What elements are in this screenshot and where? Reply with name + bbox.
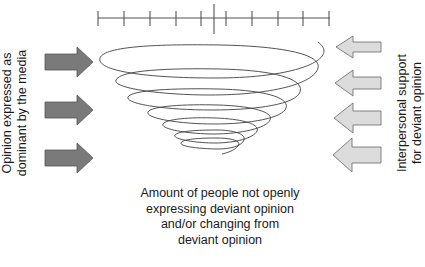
right-arrow-icon (45, 47, 93, 77)
media-arrows (45, 47, 93, 173)
right-label-line-1: Interpersonal support (395, 48, 410, 178)
left-label-line-2: dominant by the media (15, 48, 30, 178)
right-arrow-icon (45, 95, 93, 125)
caption-line-4: deviant opinion (110, 233, 330, 249)
caption-line-2: expressing deviant opinion (110, 202, 330, 218)
right-arrow-icon (45, 143, 93, 173)
interpersonal-support-arrows (333, 36, 381, 172)
silent-people-caption: Amount of people not openly expressing d… (110, 186, 330, 248)
interpersonal-support-label: Interpersonal support for deviant opinio… (395, 48, 425, 178)
spiral-of-silence-diagram: Opinion expressed as dominant by the med… (0, 0, 425, 267)
caption-line-3: and/or changing from (110, 217, 330, 233)
left-arrow-icon (336, 36, 381, 58)
spiral-funnel (100, 42, 324, 154)
right-label-line-2: for deviant opinion (410, 48, 425, 178)
opinion-scale (98, 4, 330, 34)
left-arrow-icon (334, 103, 381, 133)
left-label-line-1: Opinion expressed as (0, 48, 15, 178)
left-arrow-icon (335, 70, 381, 96)
left-arrow-icon (333, 138, 381, 172)
media-dominant-opinion-label: Opinion expressed as dominant by the med… (0, 48, 30, 178)
caption-line-1: Amount of people not openly (110, 186, 330, 202)
